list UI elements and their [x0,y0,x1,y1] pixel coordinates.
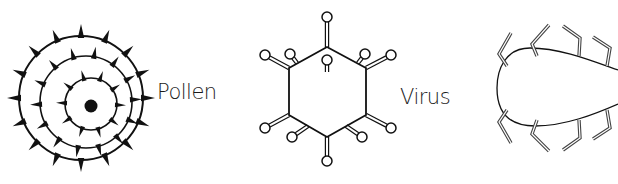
spike-icon [91,47,97,59]
spike-icon [30,101,42,107]
virus-knob-icon [260,50,270,60]
spike-icon [95,144,101,156]
spike-icon [56,101,67,106]
spike-icon [62,115,72,123]
virus-knob-icon [322,12,332,22]
virus-knob-icon [386,123,396,133]
virus-knob-icon [322,55,332,65]
spike-icon [141,95,155,101]
spike-icon [78,158,84,172]
virus-figure [260,12,396,166]
spike-icon [110,84,120,92]
spike-icon [115,102,126,107]
spike-icon [109,57,118,68]
spike-icon [7,95,21,101]
spike-icon [53,136,62,147]
spike-icon [71,48,77,60]
virus-knob-icon [260,123,270,133]
spike-icon [76,145,82,157]
pollen-nucleus-icon [85,100,98,113]
spike-icon [78,24,84,38]
spike-icon [130,97,142,103]
pollen-spikes [7,24,155,172]
virus-knob-icon [357,132,367,142]
diagram-stage: Pollen Virus [0,0,618,184]
third-particle-projections [499,25,610,151]
virus-label: Virus [400,85,450,109]
virus-knob-icon [386,50,396,60]
third-particle-body [497,48,618,126]
third-particle-figure [497,25,618,151]
virus-knob-icon [287,132,297,142]
virus-knob-icon [360,49,370,59]
virus-projections [260,12,396,166]
pollen-label: Pollen [157,80,217,104]
virus-knob-icon [322,156,332,166]
spike-icon [81,70,86,81]
spike-icon [95,126,100,137]
virus-knob-icon [285,49,295,59]
pollen-figure [7,24,155,172]
